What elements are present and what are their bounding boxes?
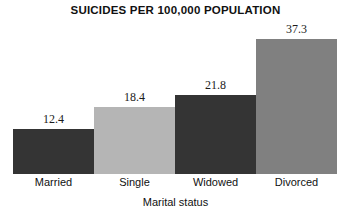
chart-title: SUICIDES PER 100,000 POPULATION [0, 4, 351, 16]
bar-rect[interactable] [94, 107, 175, 174]
bar-value-label: 12.4 [3, 112, 104, 127]
x-tick-label-widowed: Widowed [175, 176, 256, 188]
bar-rect[interactable] [175, 95, 256, 174]
bar-value-label: 21.8 [165, 78, 266, 93]
bar-slot: 12.4 [13, 24, 94, 174]
bar-slot: 18.4 [94, 24, 175, 174]
x-tick-label-single: Single [94, 176, 175, 188]
bar-rect[interactable] [256, 39, 337, 174]
x-tick-label-married: Married [13, 176, 94, 188]
bar-chart-figure: SUICIDES PER 100,000 POPULATION 12.4 18.… [0, 0, 351, 221]
x-axis-tick-labels: Married Single Widowed Divorced [13, 176, 337, 194]
x-axis-title: Marital status [0, 196, 351, 208]
bar-value-label: 37.3 [246, 22, 347, 37]
x-tick-label-divorced: Divorced [256, 176, 337, 188]
bar-rect[interactable] [13, 129, 94, 174]
bar-slot: 21.8 [175, 24, 256, 174]
bar-slot: 37.3 [256, 24, 337, 174]
plot-area: 12.4 18.4 21.8 37.3 [13, 24, 337, 174]
